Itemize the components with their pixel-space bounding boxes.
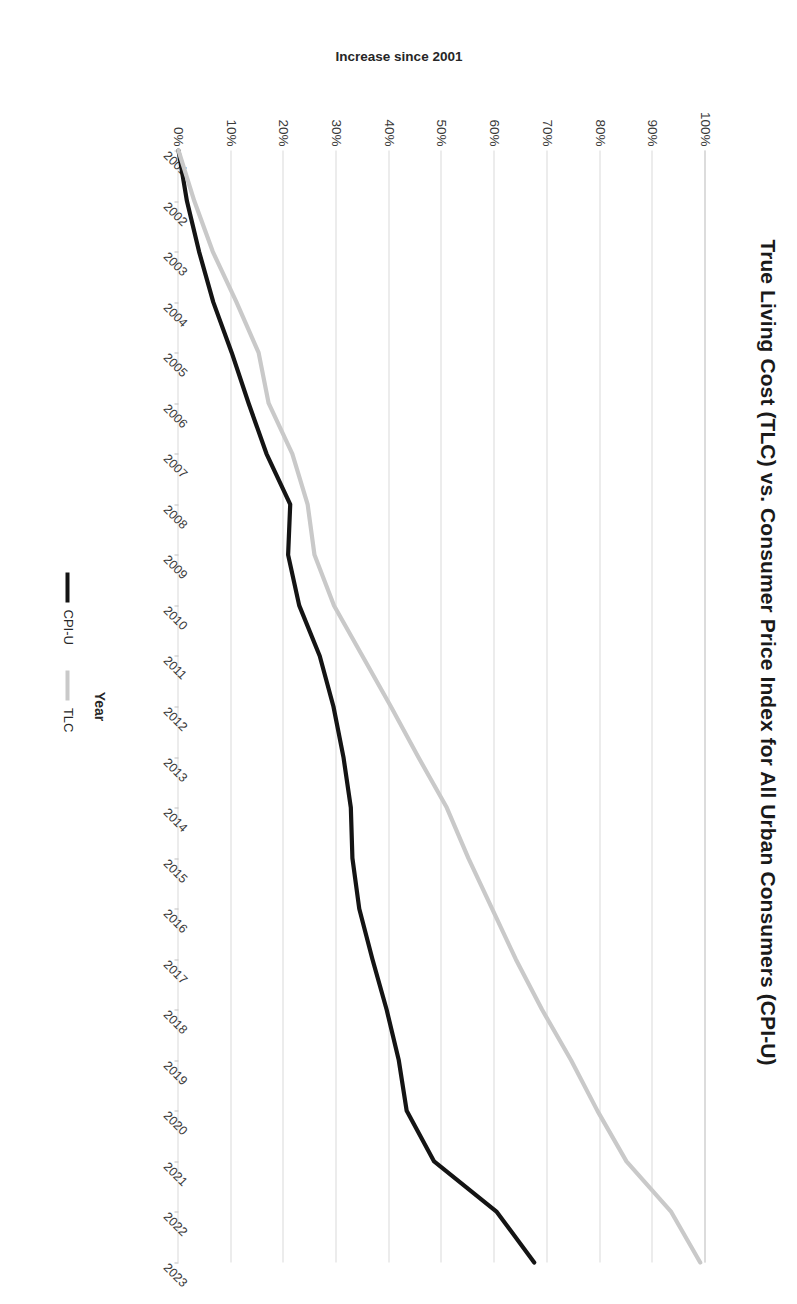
y-axis-tick-label: 40%	[381, 76, 396, 146]
y-axis-tick-label: 50%	[434, 76, 449, 146]
x-axis-tick-mark	[174, 1009, 178, 1010]
y-axis-tick-label: 60%	[487, 76, 502, 146]
x-axis-tick-mark	[174, 352, 178, 353]
x-axis-tick-mark	[174, 504, 178, 505]
x-axis-tick-mark	[174, 706, 178, 707]
plot-area: 100%90%80%70%60%50%40%30%20%10%0% 200120…	[178, 150, 705, 1262]
y-axis-title: Increase since 2001	[0, 36, 797, 76]
y-axis-tick-label: 90%	[645, 76, 660, 146]
x-axis-tick-mark	[174, 959, 178, 960]
legend-item-cpi-u[interactable]: CPI-U	[60, 572, 75, 644]
x-axis-tick-mark	[174, 908, 178, 909]
legend-label: CPI-U	[60, 609, 75, 644]
x-axis-tick-mark	[174, 403, 178, 404]
x-axis-tick-mark	[174, 1211, 178, 1212]
chart-title: True Living Cost (TLC) vs. Consumer Pric…	[755, 0, 779, 1304]
legend-item-tlc[interactable]: TLC	[60, 670, 75, 732]
x-axis-tick-mark	[174, 655, 178, 656]
y-axis-tick-label: 80%	[592, 76, 607, 146]
series-line-cpi-u	[178, 150, 534, 1262]
x-axis-tick-mark	[174, 807, 178, 808]
y-axis-tick-label: 100%	[698, 76, 713, 146]
x-axis-tick-label: 2023	[160, 1260, 190, 1290]
x-axis-tick-mark	[174, 605, 178, 606]
y-axis-tick-label: 10%	[223, 76, 238, 146]
x-axis-tick-mark	[174, 858, 178, 859]
y-axis-tick-label: 20%	[276, 76, 291, 146]
page-canvas: True Living Cost (TLC) vs. Consumer Pric…	[0, 0, 797, 1304]
series-lines	[178, 150, 705, 1262]
x-axis-tick-mark	[174, 1262, 178, 1263]
rotated-figure-wrapper: True Living Cost (TLC) vs. Consumer Pric…	[0, 0, 797, 1304]
x-axis-tick-mark	[174, 251, 178, 252]
x-axis-tick-mark	[174, 453, 178, 454]
x-axis-tick-mark	[174, 1060, 178, 1061]
y-axis-tick-label: 0%	[171, 76, 186, 146]
legend-swatch-icon	[66, 572, 70, 602]
y-axis-tick-label: 30%	[329, 76, 344, 146]
y-axis-title-text: Increase since 2001	[335, 49, 462, 64]
x-axis-tick-mark	[174, 302, 178, 303]
x-axis-tick-mark	[174, 201, 178, 202]
x-axis-tick-mark	[174, 1161, 178, 1162]
x-axis-title: Year	[91, 150, 107, 1262]
legend-swatch-icon	[66, 670, 70, 700]
series-line-tlc	[178, 150, 700, 1262]
x-axis-tick-mark	[174, 554, 178, 555]
y-axis-tick-label: 70%	[539, 76, 554, 146]
legend-label: TLC	[60, 707, 75, 732]
x-axis-tick-mark	[174, 757, 178, 758]
chart-legend: CPI-UTLC	[60, 0, 75, 1304]
x-axis-tick-mark	[174, 1110, 178, 1111]
chart-figure: True Living Cost (TLC) vs. Consumer Pric…	[0, 0, 797, 1304]
